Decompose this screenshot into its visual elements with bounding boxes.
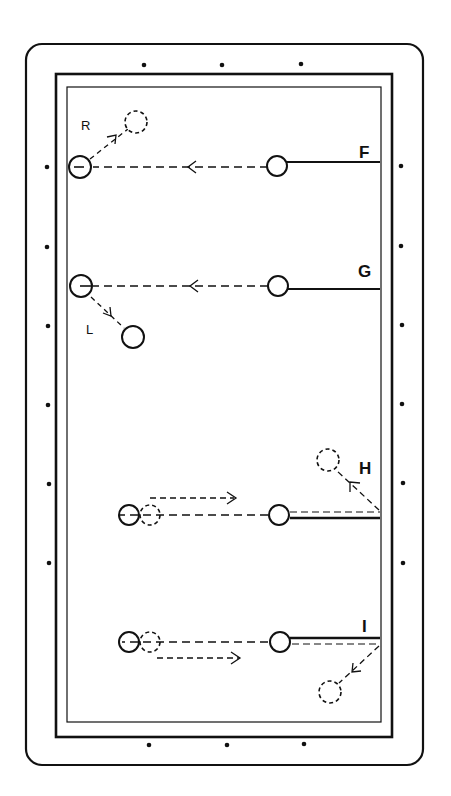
cue-ball	[267, 156, 287, 176]
deflection-path	[91, 297, 124, 328]
diamond-icon	[302, 742, 307, 747]
diamond-icon	[47, 482, 52, 487]
object-ball-end	[122, 326, 144, 348]
diamond-icon	[399, 164, 404, 169]
diamond-icon	[142, 63, 147, 68]
cue-ball	[270, 632, 290, 652]
shot-h	[119, 449, 380, 525]
bank-path	[339, 646, 379, 683]
diamond-icon	[220, 63, 225, 68]
shot-label-g: G	[358, 262, 371, 281]
shot-f	[69, 111, 380, 178]
shot-i	[119, 632, 380, 703]
ghost-ball	[125, 111, 147, 133]
diamond-icon	[401, 481, 406, 486]
diamond-icon	[46, 403, 51, 408]
diamond-icon	[400, 323, 405, 328]
diamond-icon	[225, 743, 230, 748]
diamond-icon	[46, 324, 51, 329]
deflection-path	[90, 129, 128, 159]
ghost-ball	[319, 681, 341, 703]
diamond-icon	[45, 245, 50, 250]
ghost-ball	[317, 449, 339, 471]
diamond-icon	[147, 743, 152, 748]
billiard-table-diagram: R F L G H	[0, 0, 451, 796]
path-label-r: R	[81, 118, 90, 133]
path-label-l: L	[86, 322, 93, 337]
diamond-icon	[400, 402, 405, 407]
diamond-icon	[401, 561, 406, 566]
shot-g	[70, 275, 380, 348]
diamond-icon	[47, 561, 52, 566]
shot-label-f: F	[359, 143, 369, 162]
diamond-icon	[299, 62, 304, 67]
shot-label-i: I	[362, 617, 367, 636]
shot-label-h: H	[359, 459, 371, 478]
cue-ball	[268, 276, 288, 296]
cue-ball	[269, 505, 289, 525]
diamond-icon	[45, 165, 50, 170]
diamond-icon	[399, 244, 404, 249]
bank-path	[336, 470, 379, 510]
cushion	[67, 87, 381, 722]
